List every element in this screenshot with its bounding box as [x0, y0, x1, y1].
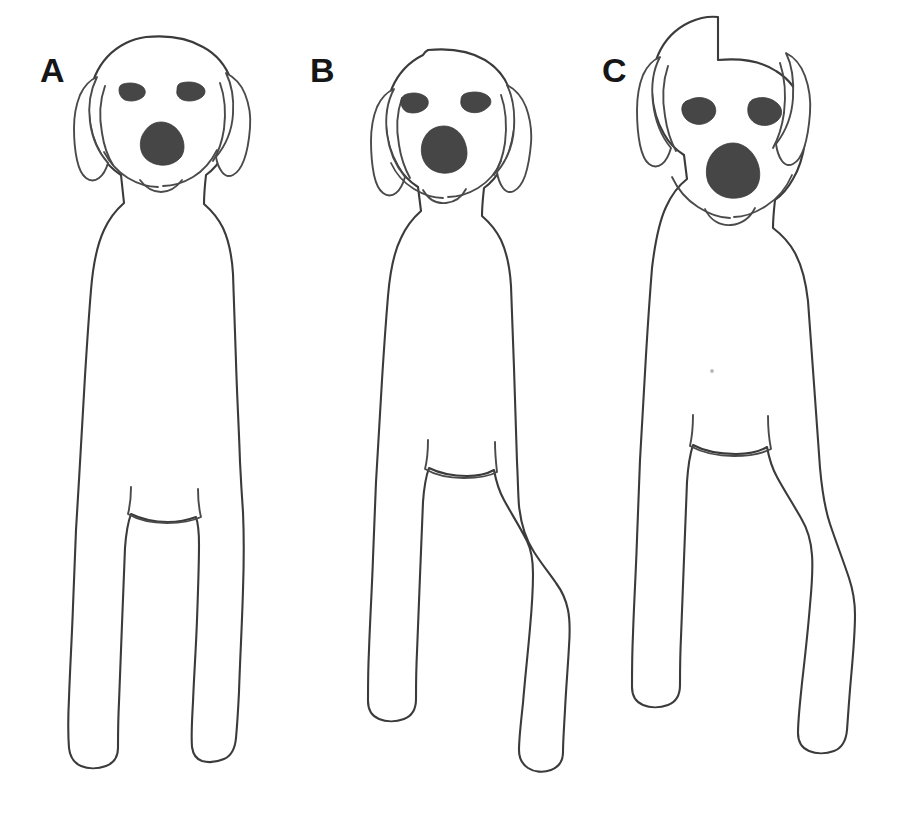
dog-a-left-eye [119, 83, 145, 101]
figure-canvas: A B [0, 0, 906, 813]
dog-c-pencil-speck [710, 369, 714, 373]
panel-label-b: B [310, 51, 335, 89]
panel-label-c: C [602, 51, 627, 89]
dog-b-left-eye [401, 93, 428, 113]
dog-a-right-eye [177, 82, 205, 101]
dog-c-left-eye [682, 98, 716, 125]
dog-drawings-figure: A B [0, 0, 906, 813]
panel-label-a: A [40, 51, 65, 89]
